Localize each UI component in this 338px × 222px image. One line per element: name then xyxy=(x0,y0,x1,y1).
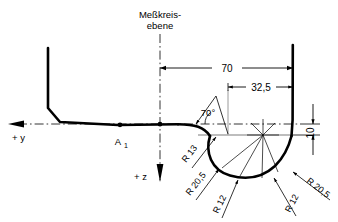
measuring-plane-intersection-marker xyxy=(158,122,163,127)
radius-spoke-left-inner xyxy=(240,135,263,176)
z-axis-arrowhead xyxy=(157,164,164,182)
angle-70-leg xyxy=(216,96,228,134)
angle-70-value: 70° xyxy=(201,107,216,118)
dimension-10-value: 10 xyxy=(305,127,316,139)
profile-bead-groove xyxy=(208,136,291,178)
y-axis-label: + y xyxy=(12,132,25,143)
technical-drawing-canvas: Meßkreis- ebene + y + z xyxy=(0,0,338,222)
point-a1-marker xyxy=(118,122,123,127)
radius-label-r12-left: R 12 xyxy=(211,180,238,218)
center-star-spoke-3 xyxy=(263,123,275,135)
radius-label-r205-left: R 20,5 xyxy=(184,169,219,200)
dimension-70-value: 70 xyxy=(221,63,233,74)
center-star-spoke-1 xyxy=(251,123,263,135)
rim-profile-drawing: Meßkreis- ebene + y + z xyxy=(0,0,338,222)
radius-spoke-left-outer xyxy=(222,135,263,168)
dimension-325-value: 32,5 xyxy=(251,82,271,93)
radius-label-r205-right: R 20,5 xyxy=(293,172,332,200)
profile-left-flange xyxy=(48,48,178,125)
point-a1-label: A 1 xyxy=(115,136,128,149)
title-line-1: Meßkreis- xyxy=(139,9,181,20)
y-axis-arrowhead xyxy=(8,120,24,127)
rim-profile-outline xyxy=(48,45,293,178)
radius-r12-left-text: R 12 xyxy=(211,193,228,214)
radius-r205-right-text: R 20,5 xyxy=(305,176,332,200)
radius-r12-right-text: R 12 xyxy=(283,192,301,213)
radius-spoke-right-inner xyxy=(263,135,278,172)
point-a1-letter: A xyxy=(115,136,122,147)
radius-r205-left-text: R 20,5 xyxy=(184,170,208,197)
dimension-325: 32,5 xyxy=(228,80,293,93)
radius-label-r13: R 13 xyxy=(180,137,216,168)
title-block: Meßkreis- ebene xyxy=(139,9,181,31)
profile-r13-transition xyxy=(178,124,210,136)
radius-r13-text: R 13 xyxy=(180,143,200,164)
radius-label-r12-right: R 12 xyxy=(274,178,301,216)
dimension-10: 10 xyxy=(293,104,320,155)
radius-center-star xyxy=(247,119,279,135)
point-a1-subscript: 1 xyxy=(124,142,128,149)
title-line-2: ebene xyxy=(147,20,173,31)
z-axis-label: + z xyxy=(134,171,147,182)
dimension-70: 70 xyxy=(160,45,293,75)
radius-spoke-center xyxy=(262,135,263,178)
